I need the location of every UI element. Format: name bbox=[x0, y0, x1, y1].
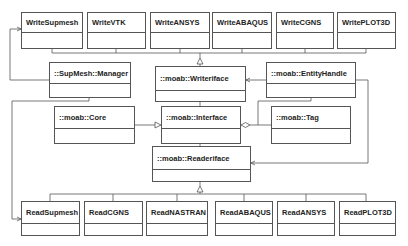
class-reader-iface[interactable]: ::moab::Readeriface bbox=[152, 146, 251, 182]
class-moab-interface[interactable]: ::moab::Interface bbox=[161, 106, 241, 144]
class-name: WriteABAQUS bbox=[213, 13, 271, 33]
class-write-vtk[interactable]: WriteVTK bbox=[87, 12, 146, 49]
class-write-abaqus[interactable]: WriteABAQUS bbox=[212, 12, 272, 49]
class-read-nastran[interactable]: ReadNASTRAN bbox=[146, 201, 208, 236]
class-name: ReadSupmesh bbox=[22, 202, 79, 224]
class-read-abaqus[interactable]: ReadABAQUS bbox=[215, 201, 273, 236]
class-read-plot3d[interactable]: ReadPLOT3D bbox=[339, 201, 396, 236]
class-name: ReadNASTRAN bbox=[147, 202, 207, 224]
class-writer-iface[interactable]: ::moab::Writeriface bbox=[155, 66, 246, 102]
class-name: ReadANSYS bbox=[278, 202, 334, 224]
class-name: WriteSupmesh bbox=[22, 13, 82, 33]
class-name: WriteCGNS bbox=[277, 13, 333, 33]
class-name: WritePLOT3D bbox=[338, 13, 395, 33]
class-name: ReadCGNS bbox=[85, 202, 142, 224]
class-moab-tag[interactable]: ::moab::Tag bbox=[271, 106, 351, 144]
class-name: ::moab::Interface bbox=[162, 107, 240, 129]
class-name: ::moab::Writeriface bbox=[156, 67, 245, 91]
class-name: ::SupMesh::Manager bbox=[50, 63, 130, 84]
class-name: ::moab::Tag bbox=[272, 107, 350, 129]
class-write-supmesh[interactable]: WriteSupmesh bbox=[21, 12, 83, 49]
class-supmesh-manager[interactable]: ::SupMesh::Manager bbox=[49, 62, 131, 98]
class-write-cgns[interactable]: WriteCGNS bbox=[276, 12, 334, 49]
class-read-supmesh[interactable]: ReadSupmesh bbox=[21, 201, 80, 236]
class-name: ReadABAQUS bbox=[216, 202, 272, 224]
class-name: WriteANSYS bbox=[151, 13, 209, 33]
class-write-plot3d[interactable]: WritePLOT3D bbox=[337, 12, 396, 49]
class-name: WriteVTK bbox=[88, 13, 145, 33]
class-write-ansys[interactable]: WriteANSYS bbox=[150, 12, 210, 49]
class-entity-handle[interactable]: ::moab::EntityHandle bbox=[266, 62, 356, 98]
class-name: ::moab::Core bbox=[55, 107, 134, 129]
class-read-cgns[interactable]: ReadCGNS bbox=[84, 201, 143, 236]
class-moab-core[interactable]: ::moab::Core bbox=[54, 106, 135, 144]
class-read-ansys[interactable]: ReadANSYS bbox=[277, 201, 335, 236]
class-name: ::moab::Readeriface bbox=[153, 147, 250, 170]
class-name: ::moab::EntityHandle bbox=[267, 63, 355, 84]
class-name: ReadPLOT3D bbox=[340, 202, 395, 224]
